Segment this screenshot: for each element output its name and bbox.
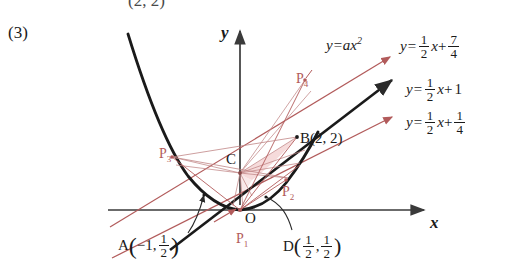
a-y-numerator: 1 bbox=[159, 232, 170, 245]
d-y-denominator: 2 bbox=[321, 246, 332, 260]
point-label-P4: P4 bbox=[296, 72, 308, 89]
eq3-intercept-numerator: 1 bbox=[454, 109, 465, 122]
eq1-lhs: y= bbox=[400, 38, 417, 55]
p2-letter: P bbox=[282, 184, 290, 199]
eq3-variable: x bbox=[437, 114, 444, 131]
eq2-variable: x bbox=[437, 81, 444, 98]
eq3-intercept-denominator: 4 bbox=[454, 122, 465, 136]
d-x-denominator: 2 bbox=[303, 246, 314, 260]
point-label-D: D ( 1 2 , 1 2 ) bbox=[283, 233, 341, 261]
a-comma: , bbox=[153, 238, 157, 253]
top-cut-fragment: (2, 2) bbox=[128, 0, 165, 9]
leader-D bbox=[266, 197, 292, 230]
eq1-slope-numerator: 1 bbox=[419, 33, 430, 46]
parabola-eq-exponent: 2 bbox=[357, 35, 362, 46]
d-x-fraction: 1 2 bbox=[303, 233, 314, 261]
point-label-P2: P2 bbox=[282, 185, 294, 202]
eq2-intercept: 1 bbox=[454, 81, 462, 98]
d-y-fraction: 1 2 bbox=[321, 233, 332, 261]
p4-letter: P bbox=[296, 71, 304, 86]
d-comma: , bbox=[316, 239, 320, 254]
point-label-C: C bbox=[226, 152, 236, 167]
eq3-slope-fraction: 1 2 bbox=[425, 109, 436, 137]
eq1-intercept-fraction: 7 4 bbox=[448, 33, 459, 61]
eq1-slope-denominator: 2 bbox=[419, 46, 430, 60]
eq3-slope-numerator: 1 bbox=[425, 109, 436, 122]
eq2-lhs: y= bbox=[406, 81, 423, 98]
d-y-numerator: 1 bbox=[321, 233, 332, 246]
point-label-P1: P1 bbox=[236, 232, 248, 249]
eq3-lhs: y= bbox=[406, 114, 423, 131]
eq2-slope-denominator: 2 bbox=[425, 89, 436, 103]
eq1-plus: + bbox=[438, 38, 446, 55]
figure-canvas: (3) (2, 2) y x y=ax2 y= 1 2 x + 7 4 y= 1… bbox=[0, 0, 512, 273]
problem-number: (3) bbox=[8, 24, 28, 41]
p3-letter: P bbox=[159, 146, 167, 161]
p3-subscript: 3 bbox=[167, 154, 172, 164]
eq1-intercept-denominator: 4 bbox=[448, 46, 459, 60]
eq1-variable: x bbox=[431, 38, 438, 55]
equation-label-2: y= 1 2 x + 1 bbox=[406, 76, 462, 104]
eq1-slope-fraction: 1 2 bbox=[419, 33, 430, 61]
eq2-plus: + bbox=[444, 81, 452, 98]
eq3-plus: + bbox=[444, 114, 452, 131]
p1-subscript: 1 bbox=[244, 239, 249, 249]
a-y-fraction: 1 2 bbox=[159, 232, 170, 260]
eq3-intercept-fraction: 1 4 bbox=[454, 109, 465, 137]
parabola-equation-label: y=ax2 bbox=[326, 36, 362, 53]
p1-letter: P bbox=[236, 231, 244, 246]
a-y-denominator: 2 bbox=[159, 245, 170, 259]
d-x-numerator: 1 bbox=[303, 233, 314, 246]
a-x-value: −1 bbox=[137, 238, 153, 253]
eq2-slope-numerator: 1 bbox=[425, 76, 436, 89]
eq1-intercept-numerator: 7 bbox=[448, 33, 459, 46]
parabola-eq-lhs: y= bbox=[326, 37, 343, 53]
parabola-eq-var: x bbox=[350, 37, 357, 53]
d-paren-open: ( bbox=[294, 237, 301, 256]
black-line-1 bbox=[170, 80, 392, 250]
a-paren-close: ) bbox=[171, 236, 179, 256]
d-letter: D bbox=[283, 239, 294, 254]
point-label-P3: P3 bbox=[159, 147, 171, 164]
equation-label-1: y= 1 2 x + 7 4 bbox=[400, 33, 461, 61]
eq2-slope-fraction: 1 2 bbox=[425, 76, 436, 104]
a-letter: A bbox=[118, 238, 129, 253]
p1-pointer bbox=[214, 209, 236, 222]
a-paren-open: ( bbox=[129, 236, 137, 256]
point-label-B: B(2, 2) bbox=[300, 131, 343, 146]
p4-subscript: 4 bbox=[304, 79, 309, 89]
p2-subscript: 2 bbox=[290, 192, 295, 202]
eq3-slope-denominator: 2 bbox=[425, 122, 436, 136]
y-axis-label: y bbox=[221, 24, 229, 41]
origin-label: O bbox=[245, 211, 256, 226]
point-label-A: A ( −1 , 1 2 ) bbox=[118, 232, 179, 260]
d-paren-close: ) bbox=[334, 237, 341, 256]
equation-label-3: y= 1 2 x + 1 4 bbox=[406, 109, 467, 137]
x-axis-label: x bbox=[430, 214, 439, 231]
red-line-7-4 bbox=[110, 57, 390, 227]
